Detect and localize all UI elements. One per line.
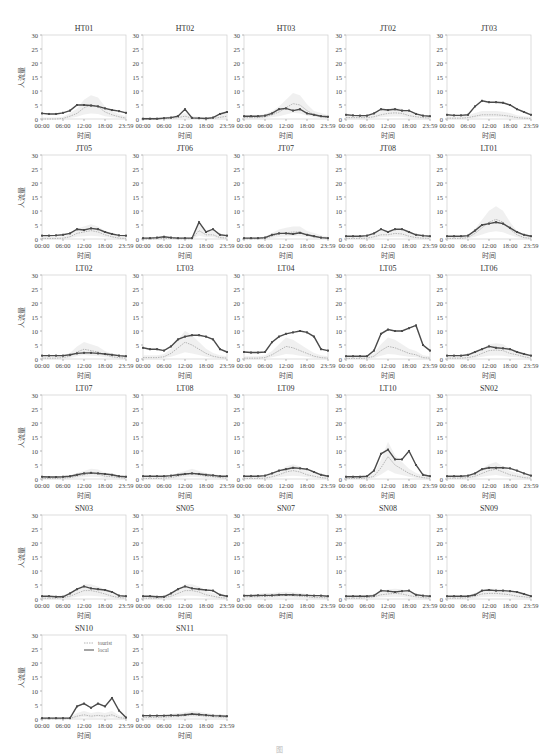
x-tick-label: 23:59 <box>119 362 134 369</box>
x-tick-label: 00:00 <box>136 362 151 369</box>
x-tick-label: 00:00 <box>339 242 354 249</box>
y-tick-label: 10 <box>437 328 444 335</box>
y-tick-label: 20 <box>437 300 444 307</box>
y-tick-label: 30 <box>336 32 343 39</box>
plot-frame <box>143 395 227 479</box>
panel-lt01: LT0105101520253000:0006:0012:0018:0023:5… <box>437 144 539 260</box>
x-tick-label: 23:59 <box>423 602 438 609</box>
y-tick-label: 30 <box>234 152 241 159</box>
x-tick-label: 12:00 <box>279 602 294 609</box>
y-tick-label: 5 <box>237 342 240 349</box>
panel-lt07: LT0705101520253000:0006:0012:0018:0023:5… <box>17 384 133 500</box>
x-tick-label: 00:00 <box>35 602 50 609</box>
y-tick-label: 10 <box>437 448 444 455</box>
y-tick-label: 15 <box>234 434 241 441</box>
y-tick-label: 20 <box>32 660 39 667</box>
panel-lt10: LT1005101520253000:0006:0012:0018:0023:5… <box>336 384 438 500</box>
x-tick-label: 00:00 <box>440 122 455 129</box>
x-tick-label: 18:00 <box>199 122 214 129</box>
plot-frame <box>42 635 126 719</box>
y-tick-label: 30 <box>336 152 343 159</box>
y-tick-label: 20 <box>234 60 241 67</box>
y-tick-label: 25 <box>32 406 39 413</box>
y-tick-label: 25 <box>437 526 444 533</box>
y-tick-label: 10 <box>336 568 343 575</box>
y-tick-label: 15 <box>336 314 343 321</box>
x-tick-label: 18:00 <box>199 482 214 489</box>
y-tick-label: 20 <box>133 540 140 547</box>
y-tick-label: 10 <box>234 568 241 575</box>
y-tick-label: 20 <box>234 180 241 187</box>
x-tick-label: 00:00 <box>35 242 50 249</box>
y-tick-label: 20 <box>336 300 343 307</box>
x-tick-label: 00:00 <box>237 482 252 489</box>
y-tick-label: 5 <box>440 582 443 589</box>
x-tick-label: 18:00 <box>402 482 417 489</box>
y-tick-label: 10 <box>336 328 343 335</box>
x-tick-label: 06:00 <box>56 242 71 249</box>
y-tick-label: 25 <box>336 166 343 173</box>
panel-title: HT01 <box>75 24 94 33</box>
y-tick-label: 25 <box>32 46 39 53</box>
y-tick-label: 30 <box>133 32 140 39</box>
x-tick-label: 06:00 <box>461 362 476 369</box>
panel-title: SN09 <box>480 504 498 513</box>
y-tick-label: 10 <box>32 568 39 575</box>
panel-title: LT07 <box>75 384 92 393</box>
y-tick-label: 5 <box>35 702 38 709</box>
x-axis-label: 时间 <box>279 611 293 620</box>
x-tick-label: 23:59 <box>524 602 539 609</box>
y-tick-label: 30 <box>336 272 343 279</box>
panel-sn08: SN0805101520253000:0006:0012:0018:0023:5… <box>336 504 438 620</box>
y-tick-label: 30 <box>32 392 39 399</box>
y-tick-label: 20 <box>133 180 140 187</box>
x-tick-label: 18:00 <box>300 602 315 609</box>
y-tick-label: 10 <box>234 328 241 335</box>
x-tick-label: 06:00 <box>360 242 375 249</box>
x-tick-label: 12:00 <box>279 482 294 489</box>
y-tick-label: 5 <box>237 582 240 589</box>
x-tick-label: 18:00 <box>199 362 214 369</box>
y-tick-label: 25 <box>336 406 343 413</box>
x-tick-label: 00:00 <box>237 362 252 369</box>
x-tick-label: 18:00 <box>98 362 113 369</box>
y-tick-label: 10 <box>437 208 444 215</box>
x-tick-label: 23:59 <box>524 122 539 129</box>
y-tick-label: 25 <box>32 286 39 293</box>
y-tick-label: 10 <box>133 448 140 455</box>
x-axis-label: 时间 <box>482 251 496 260</box>
y-tick-label: 15 <box>234 194 241 201</box>
y-tick-label: 5 <box>339 102 342 109</box>
y-tick-label: 15 <box>32 74 39 81</box>
y-tick-label: 15 <box>437 314 444 321</box>
x-axis-label: 时间 <box>77 731 91 740</box>
x-tick-label: 00:00 <box>339 482 354 489</box>
y-tick-label: 20 <box>133 420 140 427</box>
y-tick-label: 25 <box>336 46 343 53</box>
x-tick-label: 23:59 <box>321 602 336 609</box>
y-tick-label: 30 <box>133 272 140 279</box>
panel-sn09: SN0905101520253000:0006:0012:0018:0023:5… <box>437 504 539 620</box>
x-tick-label: 12:00 <box>482 242 497 249</box>
x-tick-label: 12:00 <box>178 362 193 369</box>
x-tick-label: 00:00 <box>35 122 50 129</box>
y-tick-label: 5 <box>136 342 139 349</box>
panel-jt02: JT0205101520253000:0006:0012:0018:0023:5… <box>336 24 438 140</box>
y-tick-label: 20 <box>437 420 444 427</box>
y-tick-label: 20 <box>32 540 39 547</box>
panel-title: LT08 <box>176 384 193 393</box>
y-tick-label: 15 <box>437 194 444 201</box>
y-tick-label: 15 <box>133 74 140 81</box>
x-tick-label: 18:00 <box>503 482 518 489</box>
y-tick-label: 15 <box>336 434 343 441</box>
y-tick-label: 15 <box>336 194 343 201</box>
x-tick-label: 06:00 <box>258 122 273 129</box>
y-tick-label: 20 <box>234 540 241 547</box>
y-tick-label: 10 <box>336 88 343 95</box>
plot-frame <box>346 35 430 119</box>
y-tick-label: 15 <box>32 434 39 441</box>
y-tick-label: 20 <box>133 300 140 307</box>
panel-title: LT02 <box>75 264 92 273</box>
y-tick-label: 30 <box>234 512 241 519</box>
x-tick-label: 00:00 <box>440 242 455 249</box>
